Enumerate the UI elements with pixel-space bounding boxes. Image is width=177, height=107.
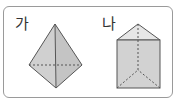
solids-diagram xyxy=(0,0,177,107)
bipyramid-shape xyxy=(29,24,82,88)
prism-shape xyxy=(117,24,160,88)
